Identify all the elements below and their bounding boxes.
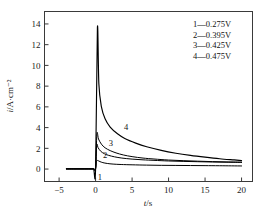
chronoamperometry-chart: −505101520 02468101214 1234 1—0.275V2—0.… xyxy=(0,0,279,219)
legend-entry-1: 1—0.275V xyxy=(193,19,232,29)
curve-tag-4: 4 xyxy=(124,122,129,132)
x-tick-label: 10 xyxy=(164,185,174,195)
y-axis-title: i/A·cm⁻² xyxy=(5,79,15,112)
y-tick-label: 10 xyxy=(32,61,42,71)
y-tick-label: 8 xyxy=(36,81,41,91)
legend-entry-2: 2—0.395V xyxy=(193,30,232,40)
y-tick-label: 4 xyxy=(36,123,41,133)
curve-tag-1: 1 xyxy=(98,172,102,182)
curve-tag-2: 2 xyxy=(103,150,107,160)
y-tick-label: 6 xyxy=(36,102,41,112)
legend-entry-4: 4—0.475V xyxy=(193,51,232,61)
y-tick-label: 0 xyxy=(36,164,41,174)
legend: 1—0.275V2—0.395V3—0.425V4—0.475V xyxy=(193,19,232,61)
x-tick-label: 15 xyxy=(201,185,211,195)
x-tick-label: −5 xyxy=(54,185,64,195)
x-tick-label: 0 xyxy=(93,185,98,195)
x-tick-label: 5 xyxy=(130,185,135,195)
x-axis-title: t/s xyxy=(144,198,153,208)
chart-figure: −505101520 02468101214 1234 1—0.275V2—0.… xyxy=(0,0,279,219)
y-tick-label: 14 xyxy=(32,19,42,29)
x-tick-label: 20 xyxy=(237,185,247,195)
curve-tag-3: 3 xyxy=(109,138,113,148)
legend-entry-3: 3—0.425V xyxy=(193,40,232,50)
y-tick-label: 12 xyxy=(32,40,41,50)
y-tick-label: 2 xyxy=(36,144,41,154)
